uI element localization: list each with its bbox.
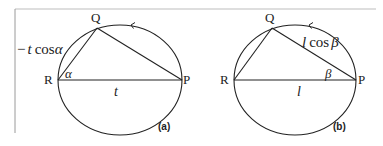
side-var-t: t	[27, 41, 32, 57]
caption-a: (a)	[158, 121, 170, 132]
direction-arrow-icon	[131, 23, 135, 29]
side-label-a: −tcosα	[17, 41, 64, 57]
diagram-canvas: Q R P α t −tcosα (a) Q R P β l lcosβ (b)	[0, 0, 383, 146]
angle-beta-label: β	[324, 66, 332, 81]
side-label-b: lcosβ	[302, 34, 339, 50]
angle-alpha-label: α	[65, 66, 73, 81]
chord-rq-b	[234, 28, 272, 80]
minus-sign: −	[17, 41, 25, 57]
panel-a: Q R P α t −tcosα (a)	[17, 10, 190, 135]
side-var-l: l	[302, 34, 306, 50]
caption-b: (b)	[333, 121, 346, 132]
point-q-label: Q	[265, 10, 275, 25]
point-p-label: P	[358, 72, 365, 87]
point-r-label: R	[44, 72, 53, 87]
chord-qp-a	[97, 28, 182, 80]
side-fn-cos: cos	[35, 41, 55, 57]
point-r-label: R	[220, 72, 229, 87]
chord-rq-a	[58, 28, 97, 80]
side-angle-beta: β	[330, 34, 339, 50]
panel-b: Q R P β l lcosβ (b)	[220, 10, 365, 135]
point-q-label: Q	[91, 10, 101, 25]
side-angle-alpha: α	[55, 41, 64, 57]
point-p-label: P	[183, 72, 190, 87]
side-fn-cos: cos	[309, 34, 329, 50]
base-t-label: t	[114, 84, 119, 99]
base-l-label: l	[297, 84, 301, 99]
